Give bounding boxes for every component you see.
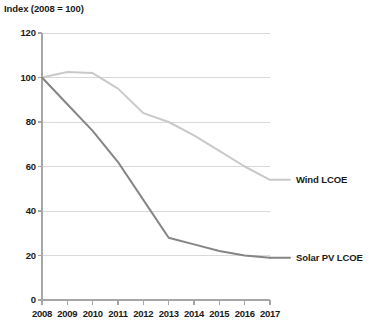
line-chart: Index (2008 = 100) 020406080100120 20082… bbox=[0, 0, 379, 330]
data-series-group bbox=[42, 72, 270, 258]
series-label-wind-lcoe: Wind LCOE bbox=[296, 174, 347, 185]
y-axis-tick-label: 120 bbox=[6, 27, 36, 38]
y-axis-tick-label: 40 bbox=[6, 205, 36, 216]
y-axis-tick-label: 60 bbox=[6, 161, 36, 172]
y-axis-tick-label: 20 bbox=[6, 250, 36, 261]
x-axis-tick-label: 2017 bbox=[253, 308, 287, 319]
y-axis-tick-label: 80 bbox=[6, 116, 36, 127]
x-axis-tickmarks bbox=[42, 300, 270, 305]
y-axis-tick-label: 100 bbox=[6, 72, 36, 83]
y-axis-tick-label: 0 bbox=[6, 294, 36, 305]
series-label-solar-pv-lcoe: Solar PV LCOE bbox=[296, 252, 363, 263]
plot-area bbox=[0, 0, 379, 330]
series-label-leader-lines bbox=[270, 180, 290, 258]
